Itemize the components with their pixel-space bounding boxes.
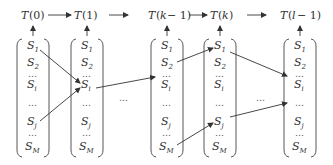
- state-label: SM: [79, 140, 95, 155]
- state-label: …: [215, 98, 224, 108]
- state-label: S1: [81, 39, 93, 54]
- state-column-2: S1S2…Si…Sj…SM: [159, 39, 175, 155]
- state-label: …: [162, 128, 171, 138]
- state-label: …: [28, 128, 37, 138]
- state-label: SM: [25, 140, 41, 155]
- svg-text:k: k: [222, 9, 229, 22]
- state-label: SM: [159, 140, 175, 155]
- state-label: …: [28, 98, 37, 108]
- state-label: SM: [292, 140, 308, 155]
- state-label: SM: [212, 140, 228, 155]
- state-label: S1: [27, 39, 39, 54]
- state-column-3: S1S2…Si…Sj…SM: [212, 39, 228, 155]
- state-label: …: [82, 128, 91, 138]
- svg-text:(0): (0): [29, 9, 45, 22]
- svg-text:k: k: [160, 9, 167, 22]
- svg-text:(1): (1): [82, 9, 98, 22]
- state-label: Si: [214, 78, 224, 93]
- state-label: Si: [27, 78, 37, 93]
- state-label: S1: [294, 39, 306, 54]
- up-arrows: [33, 26, 300, 36]
- state-label: Si: [161, 78, 171, 93]
- gap-ellipsis-2: …: [256, 93, 265, 103]
- state-label: …: [215, 128, 224, 138]
- state-label: Si: [81, 78, 91, 93]
- time-label-1: T(1): [74, 9, 98, 22]
- state-label: …: [295, 128, 304, 138]
- time-label-0: T(0): [21, 9, 45, 22]
- state-label: …: [295, 98, 304, 108]
- svg-text:− 1): − 1): [167, 9, 191, 22]
- svg-text:− 1): − 1): [297, 9, 321, 22]
- state-label: S1: [214, 39, 226, 54]
- state-label: Si: [294, 78, 304, 93]
- state-label: …: [162, 98, 171, 108]
- state-labels: S1S2…Si…Sj…SMS1S2…Si…Sj…SMS1S2…Si…Sj…SMS…: [25, 39, 308, 155]
- state-column-0: S1S2…Si…Sj…SM: [25, 39, 41, 155]
- time-label-k-1: T(k− 1): [148, 9, 191, 22]
- time-label-k: T(k): [210, 9, 233, 22]
- state-label: S1: [161, 39, 173, 54]
- gap-ellipsis-1: …: [119, 93, 128, 103]
- svg-text:l: l: [292, 9, 296, 22]
- time-label-l-1: T(l− 1): [280, 9, 321, 22]
- state-column-1: S1S2…Si…Sj…SM: [79, 39, 95, 155]
- svg-text:): ): [229, 9, 233, 22]
- state-label: …: [82, 98, 91, 108]
- state-transition-diagram: T(0) T(1) T(k− 1) T(k) T(l− 1): [0, 0, 333, 165]
- state-column-4: S1S2…Si…Sj…SM: [292, 39, 308, 155]
